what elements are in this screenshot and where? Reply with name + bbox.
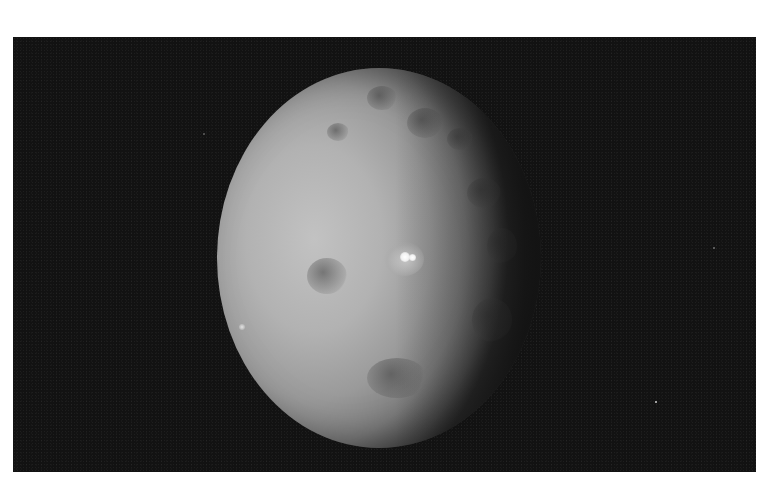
star xyxy=(655,401,657,403)
bright-spot-secondary xyxy=(409,254,416,261)
bright-spot-minor xyxy=(239,324,245,330)
terminator-shadow xyxy=(217,68,541,448)
planet-ceres xyxy=(217,68,541,448)
star xyxy=(203,133,205,135)
star xyxy=(713,247,715,249)
photo-frame xyxy=(13,37,756,472)
